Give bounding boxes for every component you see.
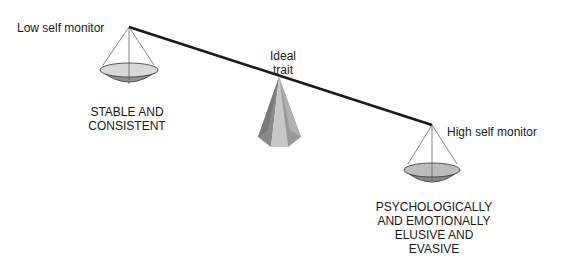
right-description-line-1: PSYCHOLOGICALLY (366, 200, 502, 214)
right-pan (404, 163, 460, 182)
left-description-line-2: CONSISTENT (77, 119, 177, 133)
left-description-line-1: STABLE AND (77, 105, 177, 119)
ideal-trait-line-1: Ideal (263, 49, 303, 63)
right-description-line-3: ELUSIVE AND (366, 228, 502, 242)
high-self-monitor-label: High self monitor (447, 125, 537, 139)
ideal-trait-line-2: trait (263, 63, 303, 77)
low-self-monitor-label: Low self monitor (17, 21, 104, 35)
left-description: STABLE AND CONSISTENT (77, 105, 177, 133)
right-description-line-2: AND EMOTIONALLY (366, 214, 502, 228)
ideal-trait-label: Ideal trait (263, 49, 303, 77)
left-pan (100, 63, 158, 82)
right-description: PSYCHOLOGICALLY AND EMOTIONALLY ELUSIVE … (366, 200, 502, 256)
fulcrum-pyramid (258, 77, 301, 147)
right-description-line-4: EVASIVE (366, 242, 502, 256)
